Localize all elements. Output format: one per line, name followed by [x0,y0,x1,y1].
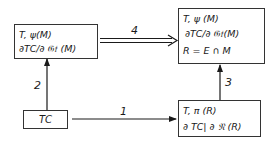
arrow-1-label: 1 [120,105,127,118]
box-r-line-1: T, π (R) [183,105,216,116]
box-m-line-1: T, ψ(M) [19,29,52,40]
arrow-4-double [100,35,177,46]
box-tc: TC [23,110,68,129]
arrow-3-label: 3 [225,76,232,89]
arrow-2-label: 2 [34,79,41,92]
box-m-line-2: ∂TC/∂ 𝔊𝔱 (M) [19,43,76,54]
box-t-pi-r: T, π (R) ∂ TC| ∂ 𝔑 (R) [178,100,261,137]
box-r-line-2: ∂ TC| ∂ 𝔑 (R) [183,121,242,132]
box-rm-line-2: ∂TC/∂ 𝔊𝔱(M) [185,28,239,39]
box-rm-line-1: T, ψ (M) [183,13,219,24]
box-t-psi-m-r-intersection: T, ψ (M) ∂TC/∂ 𝔊𝔱(M) R = E ∩ M [178,8,265,64]
box-t-psi-m: T, ψ(M) ∂TC/∂ 𝔊𝔱 (M) [14,24,98,59]
arrow-4-label: 4 [131,24,138,37]
box-tc-label: TC [24,114,67,125]
box-rm-line-3: R = E ∩ M [183,45,231,56]
